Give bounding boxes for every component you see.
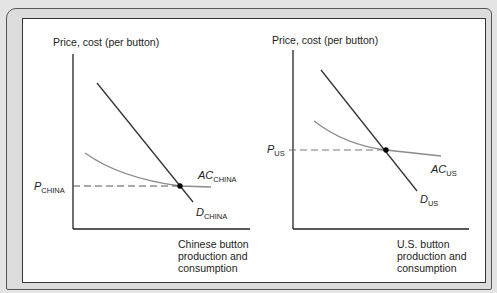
us-ac-curve [314, 121, 441, 156]
china-demand-symbol: D [196, 206, 204, 218]
us-x-axis-label: U.S. button production and consumption [397, 238, 487, 274]
china-equilibrium-point [177, 183, 182, 188]
china-demand-label: DCHINA [196, 206, 227, 220]
china-ac-symbol: AC [198, 169, 213, 181]
us-price-subscript: US [274, 149, 284, 158]
us-ac-label: ACUS [431, 163, 457, 177]
us-chart [289, 50, 469, 229]
us-ac-symbol: AC [431, 163, 446, 175]
china-x-axis-label: Chinese button production and consumptio… [178, 238, 268, 274]
us-demand-symbol: D [420, 193, 428, 205]
china-chart [73, 54, 250, 229]
us-ac-subscript: US [446, 169, 456, 178]
us-equilibrium-point [383, 147, 388, 152]
us-demand-subscript: US [428, 199, 438, 208]
china-ac-subscript: CHINA [213, 175, 236, 184]
us-demand-label: DUS [420, 193, 438, 207]
us-y-axis-label: Price, cost (per button) [272, 34, 378, 46]
china-price-label: PCHINA [34, 180, 65, 194]
us-price-label: PUS [267, 143, 285, 157]
china-demand-subscript: CHINA [204, 212, 227, 221]
us-demand-line [321, 70, 417, 191]
china-y-axis-label: Price, cost (per button) [53, 36, 159, 48]
china-price-subscript: CHINA [41, 186, 64, 195]
china-ac-label: ACCHINA [198, 169, 237, 183]
china-ac-curve [85, 153, 211, 187]
